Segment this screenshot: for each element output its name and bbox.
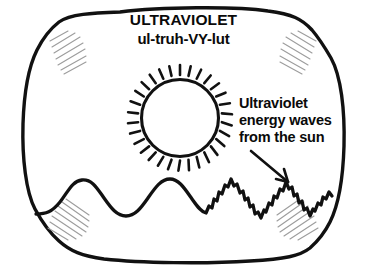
pronunciation-text: ul-truh-VY-lut — [0, 31, 367, 46]
caption-line-3: from the sun — [239, 130, 324, 145]
illustration-canvas: ULTRAVIOLET ul-truh-VY-lut Ultraviolet e… — [0, 0, 367, 270]
caption-line-1: Ultraviolet — [239, 96, 308, 111]
sun-disc-icon — [142, 80, 219, 157]
page-title: ULTRAVIOLET — [0, 12, 367, 28]
caption-line-2: energy waves — [239, 113, 332, 128]
